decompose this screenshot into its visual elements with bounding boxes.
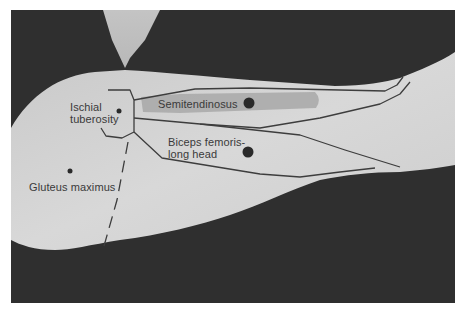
biceps-femoris-label-line1: Biceps femoris- (168, 136, 245, 148)
ischial-tuberosity-label-line2: tuberosity (70, 113, 119, 125)
gluteus-maximus-label: Gluteus maximus (29, 181, 115, 193)
anatomy-photo: Ischial tuberosity Semitendinosus Biceps… (11, 10, 455, 303)
biceps-femoris-label-line2: long head (168, 148, 245, 160)
gluteus-maximus-label-text: Gluteus maximus (29, 181, 115, 193)
ischial-tuberosity-label-line1: Ischial (70, 101, 119, 113)
semitendinosus-label-text: Semitendinosus (158, 98, 238, 110)
gluteus-maximus-marker (68, 169, 73, 174)
semitendinosus-marker (244, 98, 255, 109)
ischial-tuberosity-label: Ischial tuberosity (70, 101, 119, 125)
semitendinosus-label: Semitendinosus (158, 98, 238, 110)
biceps-femoris-label: Biceps femoris- long head (168, 136, 245, 160)
